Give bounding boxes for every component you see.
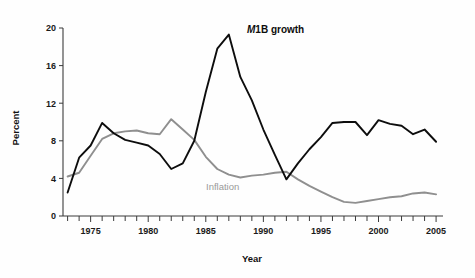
- x-axis: 1975198019851990199520002005: [63, 216, 446, 236]
- line-chart-canvas: 048121620 1975198019851990199520002005 P…: [0, 0, 475, 278]
- series-label-m1b: M1B growth: [247, 24, 304, 35]
- x-tick-label: 2000: [368, 226, 388, 236]
- y-axis: 048121620: [46, 23, 63, 221]
- series-label-m1b-rest: 1B growth: [255, 24, 304, 35]
- y-tick-label: 8: [51, 136, 56, 146]
- x-tick-label: 1975: [81, 226, 101, 236]
- x-axis-title: Year: [242, 253, 262, 264]
- y-tick-label: 12: [46, 99, 56, 109]
- y-tick-label: 20: [46, 23, 56, 33]
- y-tick-label: 16: [46, 61, 56, 71]
- series-path-m1b: [68, 35, 436, 193]
- y-tick-label: 0: [51, 211, 56, 221]
- series-path-inflation: [68, 119, 436, 203]
- x-tick-label: 1990: [253, 226, 273, 236]
- series-lines: [68, 35, 436, 203]
- x-tick-label: 1985: [196, 226, 216, 236]
- chart-figure: 048121620 1975198019851990199520002005 P…: [0, 0, 475, 278]
- x-tick-label: 1980: [138, 226, 158, 236]
- y-axis-title: Percent: [10, 110, 21, 146]
- x-tick-label: 1995: [311, 226, 331, 236]
- y-tick-label: 4: [51, 174, 56, 184]
- x-tick-label: 2005: [426, 226, 446, 236]
- series-label-inflation: Inflation: [206, 181, 239, 192]
